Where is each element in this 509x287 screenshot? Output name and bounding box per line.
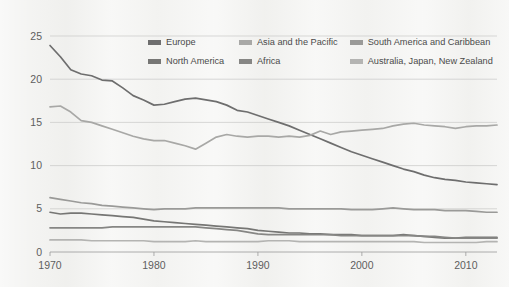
x-tick-label: 1980 [142, 259, 166, 271]
y-tick-label: 15 [30, 116, 42, 128]
legend-item-label: Europe [166, 38, 196, 47]
legend-swatch-icon [148, 40, 161, 45]
legend-item-asia-and-the-pacific[interactable]: Asia and the Pacific [239, 38, 350, 47]
y-tick-label: 0 [36, 246, 42, 258]
y-tick-label: 10 [30, 159, 42, 171]
series-line-south-america-and-caribbean [50, 198, 497, 213]
legend-item-label: Africa [257, 57, 281, 66]
legend-item-label: Asia and the Pacific [257, 38, 338, 47]
series-line-africa [50, 227, 497, 238]
x-tick-label: 1990 [246, 259, 270, 271]
series-line-australia-japan-new-zealand [50, 240, 497, 243]
legend-item-australia-japan-new-zealand[interactable]: Australia, Japan, New Zealand [350, 57, 498, 66]
legend-item-north-america[interactable]: North America [148, 57, 239, 66]
legend-item-label: North America [166, 57, 224, 66]
x-tick-label: 2000 [350, 259, 374, 271]
series-line-asia-and-the-pacific [50, 106, 497, 149]
legend-swatch-icon [239, 40, 252, 45]
legend-item-label: Australia, Japan, New Zealand [368, 57, 493, 66]
legend-item-label: South America and Caribbean [368, 38, 491, 47]
legend-row: North AmericaAfricaAustralia, Japan, New… [148, 52, 498, 71]
x-axis-tick-labels: 19701980199020002010 [38, 259, 477, 271]
legend-swatch-icon [350, 59, 363, 64]
legend-swatch-icon [350, 40, 363, 45]
chart-legend: EuropeAsia and the PacificSouth America … [148, 33, 498, 71]
data-series-group [50, 46, 497, 243]
y-tick-label: 20 [30, 73, 42, 85]
legend-swatch-icon [239, 59, 252, 64]
legend-swatch-icon [148, 59, 161, 64]
x-axis-tick-marks [50, 252, 466, 256]
legend-item-africa[interactable]: Africa [239, 57, 350, 66]
y-tick-label: 5 [36, 202, 42, 214]
legend-item-south-america-and-caribbean[interactable]: South America and Caribbean [350, 38, 498, 47]
x-tick-label: 1970 [38, 259, 62, 271]
legend-item-europe[interactable]: Europe [148, 38, 239, 47]
y-tick-label: 25 [30, 30, 42, 42]
y-axis-tick-labels: 0510152025 [30, 30, 42, 258]
legend-row: EuropeAsia and the PacificSouth America … [148, 33, 498, 52]
chart-figure: 0510152025 19701980199020002010 EuropeAs… [0, 0, 509, 287]
x-tick-label: 2010 [454, 259, 478, 271]
